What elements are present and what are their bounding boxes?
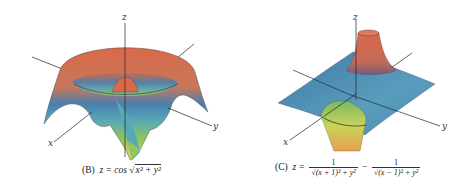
caption-b: (B) z = cos √x² + y² bbox=[82, 165, 161, 175]
figure-label: (C) bbox=[275, 162, 288, 172]
fraction-term-1: 1 √(x + 1)² + y² bbox=[309, 158, 357, 178]
caption-c: (C) z = 1 √(x + 1)² + y² − 1 √(x − 1)² +… bbox=[275, 158, 422, 178]
axis-label-z: z bbox=[122, 12, 127, 22]
surface-plot-b bbox=[0, 0, 228, 191]
axis-label-z: z bbox=[353, 12, 358, 22]
axis-label-x: x bbox=[283, 137, 288, 147]
axis-label-y: y bbox=[442, 121, 447, 131]
figure-c-potential-surface: z x y (C) z = 1 √(x + 1)² + y² − 1 √(x −… bbox=[228, 0, 457, 191]
figure-b-cos-surface: z x y (B) z = cos √x² + y² bbox=[0, 0, 228, 191]
axis-label-y: y bbox=[213, 121, 218, 131]
fraction-term-2: 1 √(x − 1)² + y² bbox=[372, 158, 420, 178]
figure-label: (B) bbox=[82, 165, 95, 175]
equation-lhs: z = bbox=[292, 162, 304, 172]
sqrt-icon: √ bbox=[129, 165, 134, 175]
minus-operator: − bbox=[362, 162, 367, 172]
axis-label-x: x bbox=[48, 138, 53, 148]
equation-radicand: x² + y² bbox=[135, 164, 161, 175]
equation-lhs: z = cos bbox=[99, 165, 127, 175]
